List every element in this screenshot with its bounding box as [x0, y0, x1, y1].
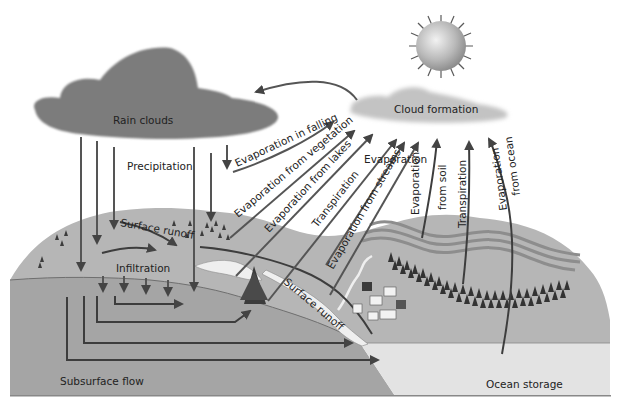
- infiltration-label: Infiltration: [116, 262, 170, 274]
- ocean-storage-label: Ocean storage: [486, 378, 563, 390]
- evaporation-from-soil-label-2: from soil: [436, 164, 448, 210]
- transpiration-right-label: Transpiration: [456, 160, 468, 229]
- rain-clouds-label: Rain clouds: [113, 114, 173, 126]
- ocean: [360, 343, 610, 396]
- precipitation-label: Precipitation: [127, 160, 193, 172]
- evaporation-from-soil-label-1: Evaporation: [409, 152, 421, 215]
- subsurface-flow-label: Subsurface flow: [60, 375, 144, 387]
- sun-icon: [409, 15, 473, 78]
- cloud-formation-label: Cloud formation: [394, 103, 478, 115]
- water-cycle-diagram: Rain clouds Cloud formation Precipitatio…: [0, 0, 618, 409]
